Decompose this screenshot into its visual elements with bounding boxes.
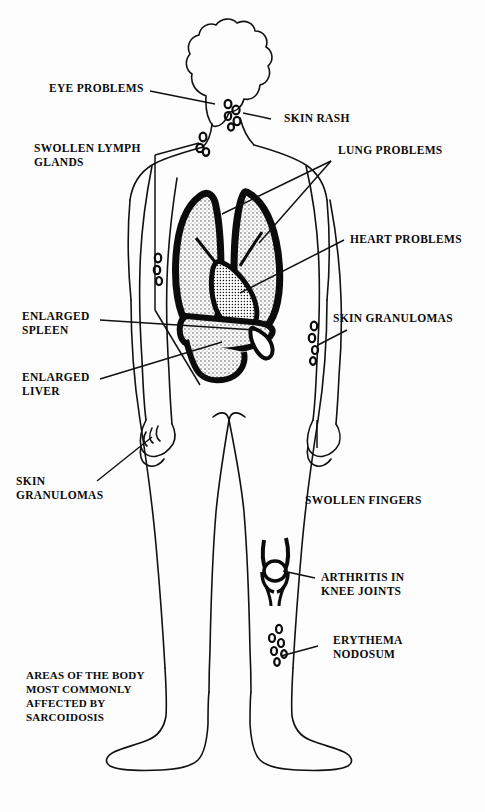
- leader-lung-right: [259, 161, 331, 243]
- label-skin-granulomas-left: SKIN GRANULOMAS: [16, 475, 103, 502]
- lymph-nodes-spots: [196, 133, 209, 156]
- label-eye-problems: EYE PROBLEMS: [49, 82, 144, 96]
- erythema-nodosum-spots: [269, 625, 287, 666]
- leader-skin-granulomas-left: [97, 437, 152, 481]
- label-swollen-lymph-glands: SWOLLEN LYMPH GLANDS: [34, 142, 141, 169]
- label-erythema-nodosum: ERYTHEMA NODOSUM: [333, 634, 403, 661]
- right-foot-outline: [250, 668, 351, 770]
- label-enlarged-liver: ENLARGED LIVER: [22, 371, 90, 398]
- label-lung-problems: LUNG PROBLEMS: [338, 144, 443, 158]
- label-enlarged-spleen: ENLARGED SPLEEN: [22, 310, 90, 337]
- rash-spots: [225, 100, 241, 131]
- leader-skin-rash: [243, 113, 271, 119]
- label-arthritis-knee-joints: ARTHRITIS IN KNEE JOINTS: [321, 571, 404, 598]
- leader-skin-granulomas-right: [318, 330, 347, 345]
- sarcoidosis-body-diagram: EYE PROBLEMS SWOLLEN LYMPH GLANDS ENLARG…: [0, 0, 485, 812]
- label-skin-rash: SKIN RASH: [284, 112, 350, 126]
- label-heart-problems: HEART PROBLEMS: [350, 233, 462, 247]
- leader-swollen-lymph: [155, 143, 199, 155]
- leader-lung-left: [222, 161, 331, 214]
- label-swollen-fingers: SWOLLEN FINGERS: [305, 494, 422, 508]
- diagram-caption: AREAS OF THE BODY MOST COMMONLY AFFECTED…: [26, 668, 145, 724]
- head-outline: [186, 19, 272, 126]
- label-skin-granulomas-right: SKIN GRANULOMAS: [333, 312, 453, 326]
